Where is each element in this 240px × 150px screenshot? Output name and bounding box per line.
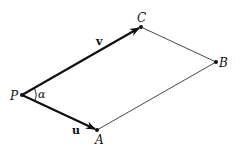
label-A: A bbox=[94, 133, 104, 147]
edge-C-B bbox=[141, 27, 216, 62]
vector-u bbox=[22, 95, 95, 129]
vector-v bbox=[22, 28, 139, 95]
point-P bbox=[20, 93, 24, 97]
point-B bbox=[214, 60, 218, 64]
edge-A-B bbox=[97, 62, 216, 130]
point-A bbox=[95, 128, 99, 132]
angle-arc bbox=[34, 88, 36, 101]
point-C bbox=[139, 25, 143, 29]
label-C: C bbox=[137, 11, 146, 25]
parallelogram-diagram: P C B A v u α bbox=[0, 0, 240, 150]
label-u: u bbox=[72, 124, 80, 137]
label-B: B bbox=[218, 56, 228, 70]
label-P: P bbox=[9, 89, 19, 103]
label-alpha: α bbox=[38, 88, 46, 101]
label-v: v bbox=[95, 35, 103, 48]
